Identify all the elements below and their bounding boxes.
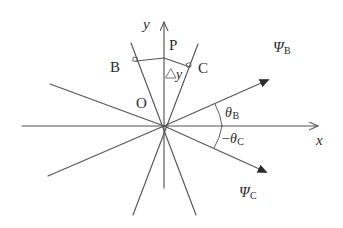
psi-c-subscript: C bbox=[250, 190, 257, 201]
theta-c-label: −θC bbox=[222, 132, 244, 147]
delta-y-variable: y bbox=[176, 67, 182, 82]
right-angle-marker-c bbox=[187, 63, 192, 68]
psi-b-ray bbox=[50, 79, 271, 84]
psi-c-line bbox=[48, 126, 164, 176]
delta-y-label: y bbox=[176, 66, 182, 82]
theta-b-label: θB bbox=[225, 106, 239, 121]
psi-b-arrow-segment bbox=[164, 80, 268, 126]
theta-c-subscript: C bbox=[237, 136, 244, 147]
theta-b-arc bbox=[215, 104, 222, 126]
x-axis-label: x bbox=[316, 133, 323, 148]
point-p-label: P bbox=[169, 38, 177, 53]
theta-c-arc bbox=[214, 126, 222, 148]
line-b-label: B bbox=[110, 60, 120, 75]
figure-canvas: y x O P B C y ΨB ΨC θB −θC bbox=[0, 0, 343, 228]
theta-b-subscript: B bbox=[232, 110, 239, 121]
origin-label: O bbox=[136, 96, 147, 111]
psi-c-symbol: Ψ bbox=[239, 184, 250, 200]
p-to-b-foot-segment bbox=[136, 58, 164, 61]
theta-c-minus-sign: − bbox=[222, 131, 230, 146]
psi-b-subscript: B bbox=[284, 45, 291, 56]
y-axis-label: y bbox=[143, 17, 150, 32]
psi-b-symbol: Ψ bbox=[273, 39, 284, 55]
line-c-label: C bbox=[198, 61, 208, 76]
theta-c-symbol: θ bbox=[230, 131, 237, 146]
line-c bbox=[133, 44, 198, 215]
delta-triangle-marker bbox=[166, 69, 176, 78]
diagram-svg bbox=[0, 0, 343, 228]
psi-c-label: ΨC bbox=[239, 185, 257, 201]
psi-b-label: ΨB bbox=[273, 40, 291, 56]
theta-b-symbol: θ bbox=[225, 105, 232, 120]
psi-c-arrow-segment bbox=[164, 126, 266, 172]
